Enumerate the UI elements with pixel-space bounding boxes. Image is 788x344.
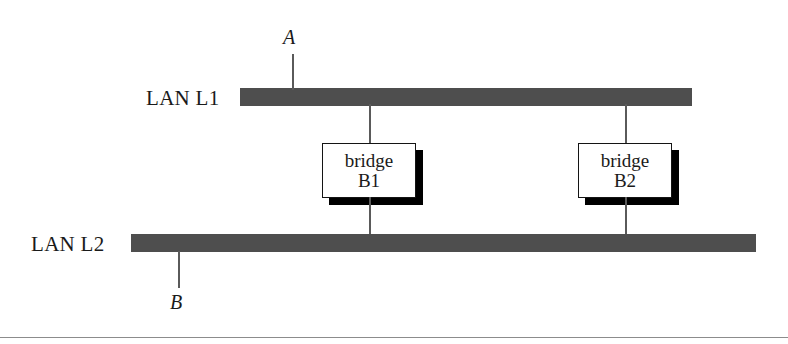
bridge-b1-label-line2: B1 [358, 171, 380, 191]
connector-lan-l1-to-bridge-b1 [369, 104, 371, 144]
connector-station-a-to-lan-l1 [292, 54, 294, 90]
lan-l1-label: LAN L1 [146, 88, 220, 109]
connector-station-b-to-lan-l2 [178, 251, 180, 288]
page-divider-rule [0, 337, 788, 338]
station-a-label: A [283, 27, 295, 47]
bridge-b1-label-line1: bridge [345, 151, 394, 171]
bridge-b2-label-line2: B2 [614, 171, 636, 191]
lan-l2-bus [131, 234, 756, 252]
bridge-b1-box: bridge B1 [322, 143, 416, 198]
connector-bridge-b1-to-lan-l2 [369, 197, 371, 236]
bridge-b2-box: bridge B2 [578, 143, 672, 198]
network-topology-diagram: LAN L1 A bridge B1 bridge B2 LAN L2 B [0, 0, 788, 344]
bridge-b2-label-line1: bridge [601, 151, 650, 171]
connector-lan-l1-to-bridge-b2 [625, 104, 627, 144]
connector-bridge-b2-to-lan-l2 [625, 197, 627, 236]
station-b-label: B [170, 292, 182, 312]
lan-l2-label: LAN L2 [31, 234, 105, 255]
